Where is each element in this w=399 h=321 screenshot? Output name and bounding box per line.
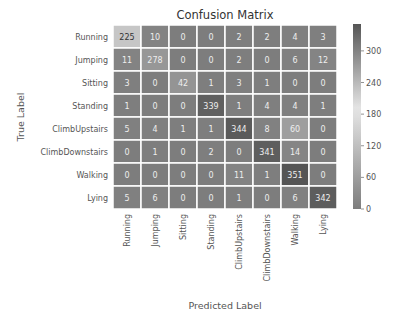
cell-value-label: 11: [122, 56, 132, 65]
cell-value-label: 278: [147, 56, 162, 65]
cell-value-label: 2: [208, 148, 213, 157]
cell-value-label: 3: [124, 79, 129, 88]
cell-value-label: 0: [124, 148, 129, 157]
cell-value-label: 225: [119, 33, 134, 42]
x-tick-label: ClimbDownstairs: [263, 214, 272, 281]
cell-value-label: 0: [264, 194, 269, 203]
x-tick-label: Jumping: [151, 214, 160, 248]
cell-value-label: 1: [208, 125, 213, 134]
cell-value-label: 10: [150, 33, 160, 42]
cell-value-label: 1: [180, 125, 185, 134]
cell-value-label: 339: [203, 102, 218, 111]
y-tick-label: ClimbDownstairs: [41, 148, 108, 157]
cell-value-label: 0: [320, 125, 325, 134]
cell-value-label: 0: [180, 171, 185, 180]
colorbar-tick-label: 0: [366, 205, 371, 214]
cell-value-label: 0: [208, 33, 213, 42]
x-tick-label: Standing: [207, 214, 216, 250]
cell-value-label: 1: [264, 79, 269, 88]
cell-value-label: 3: [236, 79, 241, 88]
cell-value-label: 344: [231, 125, 246, 134]
colorbar: [353, 24, 361, 209]
cell-value-label: 3: [320, 33, 325, 42]
cell-value-label: 0: [208, 171, 213, 180]
cell-value-label: 351: [287, 171, 302, 180]
y-tick-label: Lying: [87, 194, 108, 203]
cell-value-label: 4: [292, 102, 297, 111]
y-tick-label: ClimbUpstairs: [52, 125, 108, 134]
cell-value-label: 1: [264, 171, 269, 180]
cell-value-label: 0: [180, 148, 185, 157]
cell-value-label: 0: [180, 102, 185, 111]
y-axis-label: True Label: [15, 93, 26, 143]
cell-value-label: 0: [208, 56, 213, 65]
cell-value-label: 5: [124, 125, 129, 134]
x-tick-label: Running: [123, 214, 132, 247]
cell-value-label: 6: [292, 56, 297, 65]
y-tick-label: Jumping: [74, 56, 108, 65]
cell-value-label: 0: [320, 171, 325, 180]
colorbar-tick-label: 180: [366, 110, 381, 119]
y-tick-labels: RunningJumpingSittingStandingClimbUpstai…: [41, 33, 108, 203]
cell-value-label: 0: [180, 56, 185, 65]
cell-value-label: 42: [178, 79, 188, 88]
cell-value-label: 0: [152, 171, 157, 180]
cell-value-label: 4: [264, 102, 269, 111]
cell-value-label: 342: [315, 194, 330, 203]
cell-value-label: 1: [236, 194, 241, 203]
cell-value-label: 0: [320, 79, 325, 88]
colorbar-ticks: 060120180240300: [361, 47, 381, 214]
cell-value-label: 1: [208, 79, 213, 88]
cell-value-label: 0: [180, 33, 185, 42]
x-tick-label: ClimbUpstairs: [235, 214, 244, 270]
colorbar-tick-label: 300: [366, 47, 381, 56]
cell-value-label: 1: [124, 102, 129, 111]
colorbar-tick-label: 120: [366, 142, 381, 151]
cell-value-label: 1: [236, 102, 241, 111]
x-tick-labels: RunningJumpingSittingStandingClimbUpstai…: [123, 214, 328, 281]
cell-value-label: 0: [124, 171, 129, 180]
chart-title: Confusion Matrix: [176, 8, 273, 22]
x-tick-label: Walking: [291, 214, 300, 246]
x-tick-label: Sitting: [179, 214, 188, 240]
cell-value-label: 4: [152, 125, 157, 134]
cell-value-label: 1: [152, 148, 157, 157]
cell-value-label: 0: [236, 148, 241, 157]
cell-value-label: 2: [264, 33, 269, 42]
cell-value-label: 6: [152, 194, 157, 203]
y-tick-label: Running: [75, 33, 108, 42]
cell-value-label: 11: [234, 171, 244, 180]
y-tick-label: Walking: [76, 171, 108, 180]
cell-value-label: 8: [264, 125, 269, 134]
cell-value-label: 0: [264, 56, 269, 65]
cell-value-label: 4: [292, 33, 297, 42]
cell-value-label: 0: [320, 148, 325, 157]
cell-value-label: 0: [152, 79, 157, 88]
cell-value-label: 2: [236, 56, 241, 65]
cell-value-label: 60: [290, 125, 300, 134]
cell-value-label: 6: [292, 194, 297, 203]
cell-value-label: 0: [292, 79, 297, 88]
y-tick-label: Sitting: [82, 79, 108, 88]
cell-value-label: 2: [236, 33, 241, 42]
cell-value-label: 341: [259, 148, 274, 157]
cell-value-label: 0: [180, 194, 185, 203]
heatmap-cells: 2251000224311278002061230421310010033914…: [113, 25, 337, 209]
cell-value-label: 1: [320, 102, 325, 111]
x-axis-label: Predicted Label: [188, 300, 261, 311]
colorbar-tick-label: 240: [366, 79, 381, 88]
cell-value-label: 0: [208, 194, 213, 203]
confusion-matrix-chart: Confusion Matrix 22510002243112780020612…: [0, 0, 399, 321]
cell-value-label: 14: [290, 148, 300, 157]
cell-value-label: 0: [152, 102, 157, 111]
colorbar-tick-label: 60: [366, 173, 376, 182]
y-tick-label: Standing: [72, 102, 108, 111]
x-tick-label: Lying: [319, 214, 328, 235]
cell-value-label: 12: [318, 56, 328, 65]
cell-value-label: 5: [124, 194, 129, 203]
